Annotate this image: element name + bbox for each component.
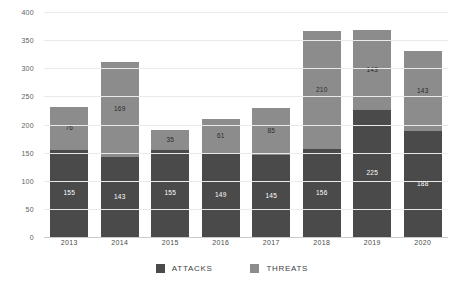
- bar-segment-attacks[interactable]: 188: [404, 131, 442, 237]
- bar-segment-attacks[interactable]: 149: [202, 153, 240, 237]
- legend-item-attacks[interactable]: ATTACKS: [156, 264, 213, 273]
- y-axis-tick-label: 350: [0, 37, 34, 44]
- x-axis-tick-label: 2017: [252, 239, 290, 246]
- legend-swatch-icon: [250, 264, 259, 273]
- bar-value-label: 35: [166, 137, 174, 144]
- bar-value-label: 155: [165, 190, 176, 197]
- gridline-0: [44, 237, 448, 238]
- bar-segment-threats[interactable]: 169: [101, 62, 139, 157]
- bar-segment-attacks[interactable]: 156: [303, 149, 341, 237]
- y-axis: 050100150200250300350400: [0, 12, 40, 237]
- bar-segment-threats[interactable]: 143: [404, 51, 442, 131]
- bar-segment-attacks[interactable]: 155: [151, 150, 189, 237]
- gridline-350: [44, 40, 448, 41]
- x-axis-tick-label: 2013: [50, 239, 88, 246]
- x-axis-tick-label: 2015: [151, 239, 189, 246]
- legend-item-threats[interactable]: THREATS: [250, 264, 308, 273]
- bar-segment-threats[interactable]: 143: [353, 30, 391, 110]
- bar-value-label: 76: [65, 125, 73, 132]
- bar-value-label: 145: [266, 193, 277, 200]
- bar-value-label: 61: [217, 133, 225, 140]
- bar-value-label: 85: [267, 128, 275, 135]
- y-axis-tick-label: 0: [0, 234, 34, 241]
- bar-value-label: 188: [417, 181, 428, 188]
- gridline-250: [44, 96, 448, 97]
- x-axis: 20132014201520162017201820192020: [44, 239, 448, 255]
- bar-segment-threats[interactable]: 210: [303, 31, 341, 149]
- y-axis-tick-label: 50: [0, 205, 34, 212]
- bar-value-label: 143: [114, 194, 125, 201]
- x-axis-tick-label: 2016: [202, 239, 240, 246]
- gridline-150: [44, 153, 448, 154]
- bar-value-label: 210: [316, 87, 327, 94]
- y-axis-tick-label: 150: [0, 149, 34, 156]
- bar-segment-attacks[interactable]: 143: [101, 157, 139, 237]
- x-axis-tick-label: 2019: [353, 239, 391, 246]
- bar-value-label: 225: [367, 170, 378, 177]
- bar-value-label: 169: [114, 106, 125, 113]
- y-axis-tick-label: 200: [0, 121, 34, 128]
- x-axis-tick-label: 2018: [303, 239, 341, 246]
- bar-segment-threats[interactable]: 35: [151, 130, 189, 150]
- bar-segment-threats[interactable]: 85: [252, 108, 290, 156]
- bar-value-label: 155: [64, 190, 75, 197]
- y-axis-tick-label: 100: [0, 177, 34, 184]
- y-axis-tick-label: 300: [0, 65, 34, 72]
- legend-label: THREATS: [266, 264, 308, 273]
- gridline-300: [44, 68, 448, 69]
- gridline-400: [44, 12, 448, 13]
- gridline-100: [44, 181, 448, 182]
- bar-value-label: 156: [316, 190, 327, 197]
- bar-value-label: 149: [215, 192, 226, 199]
- legend-label: ATTACKS: [172, 264, 213, 273]
- y-axis-tick-label: 400: [0, 9, 34, 16]
- x-axis-tick-label: 2014: [101, 239, 139, 246]
- plot-area: 7615516914335155611498514521015614322514…: [44, 12, 448, 237]
- bar-segment-threats[interactable]: 76: [50, 107, 88, 150]
- y-axis-tick-label: 250: [0, 93, 34, 100]
- gridline-200: [44, 125, 448, 126]
- gridline-50: [44, 209, 448, 210]
- bar-segment-attacks[interactable]: 155: [50, 150, 88, 237]
- bar-value-label: 143: [417, 88, 428, 95]
- stacked-bar-chart: 050100150200250300350400 761551691433515…: [0, 0, 464, 293]
- x-axis-tick-label: 2020: [404, 239, 442, 246]
- bar-segment-attacks[interactable]: 145: [252, 155, 290, 237]
- legend-swatch-icon: [156, 264, 165, 273]
- bar-segment-attacks[interactable]: 225: [353, 110, 391, 237]
- chart-legend: ATTACKSTHREATS: [0, 264, 464, 273]
